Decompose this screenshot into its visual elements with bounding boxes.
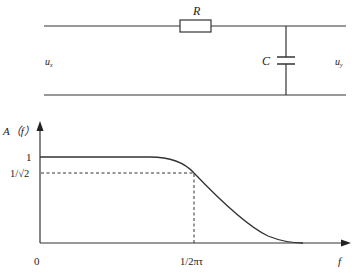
capacitor-label: C [262, 54, 271, 68]
y-tick-half-power: 1/√2 [10, 168, 29, 179]
y-axis-label: A（f） [2, 125, 35, 137]
x-axis-arrow-icon [341, 240, 351, 247]
rc-lowpass-diagram: R C ux uy A（f） 1 1/√2 0 1/2πτ f [0, 0, 354, 278]
amplitude-response-curve [40, 157, 303, 243]
guide-lines [41, 173, 194, 243]
x-tick-cutoff: 1/2πτ [180, 256, 203, 267]
output-voltage-subscript: y [339, 62, 343, 68]
x-axis-label: f [338, 255, 343, 267]
output-voltage-label: uy [335, 56, 343, 68]
plot-axes [40, 128, 344, 243]
input-voltage-subscript: x [49, 62, 53, 68]
resistor [180, 20, 211, 32]
resistor-label: R [192, 4, 201, 18]
y-axis-arrow-icon [37, 121, 44, 131]
input-voltage-label: ux [45, 56, 53, 68]
rc-circuit [44, 20, 346, 95]
origin-label: 0 [34, 255, 40, 267]
y-tick-1: 1 [26, 151, 32, 163]
